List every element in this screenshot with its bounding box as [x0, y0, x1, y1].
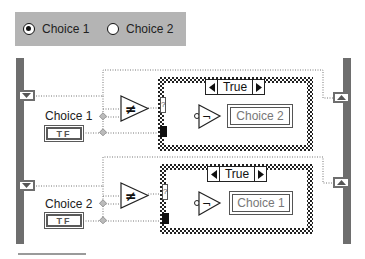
input-tunnel	[160, 126, 167, 137]
up-arrow-icon	[335, 179, 348, 186]
svg-text:¬: ¬	[202, 111, 211, 124]
case-selector-value: True	[220, 167, 254, 181]
shift-register-right-1[interactable]	[333, 92, 350, 103]
loop-border-right	[343, 58, 351, 244]
down-arrow-icon	[20, 182, 33, 189]
case-selector[interactable]: True	[207, 166, 267, 182]
case-prev-button[interactable]	[208, 167, 220, 181]
indicator-terminal[interactable]: Choice 1	[232, 194, 290, 212]
case-next-button[interactable]	[252, 80, 264, 94]
up-arrow-icon	[335, 94, 348, 101]
left-triangle-icon	[211, 170, 217, 179]
boolean-terminal[interactable]: TF	[46, 127, 82, 140]
down-arrow-icon	[20, 92, 33, 99]
control-label: Choice 2	[45, 197, 92, 211]
shift-register-left-2[interactable]	[18, 180, 35, 191]
case-selector-terminal: ?	[162, 184, 168, 200]
right-triangle-icon	[256, 83, 262, 92]
shift-register-right-2[interactable]	[333, 177, 350, 188]
case-next-button[interactable]	[254, 167, 266, 181]
svg-text:¬: ¬	[202, 198, 211, 211]
shift-register-left-1[interactable]	[18, 90, 35, 101]
boolean-terminal[interactable]: TF	[46, 214, 82, 227]
indicator-terminal[interactable]: Choice 2	[230, 107, 290, 125]
case-prev-button[interactable]	[206, 80, 218, 94]
case-selector[interactable]: True	[205, 79, 265, 95]
not-equal-icon[interactable]: ≠	[120, 182, 150, 210]
divider-line	[18, 253, 86, 255]
input-tunnel	[162, 213, 169, 224]
case-selector-terminal: ?	[160, 97, 166, 113]
left-triangle-icon	[209, 83, 215, 92]
right-triangle-icon	[258, 170, 264, 179]
svg-text:≠: ≠	[125, 101, 137, 117]
not-gate-icon[interactable]: ¬	[193, 104, 223, 130]
case-selector-value: True	[218, 80, 252, 94]
svg-text:≠: ≠	[125, 188, 137, 204]
loop-border-left	[16, 58, 24, 244]
control-label: Choice 1	[45, 109, 92, 123]
not-equal-icon[interactable]: ≠	[120, 95, 150, 123]
not-gate-icon[interactable]: ¬	[193, 191, 223, 217]
